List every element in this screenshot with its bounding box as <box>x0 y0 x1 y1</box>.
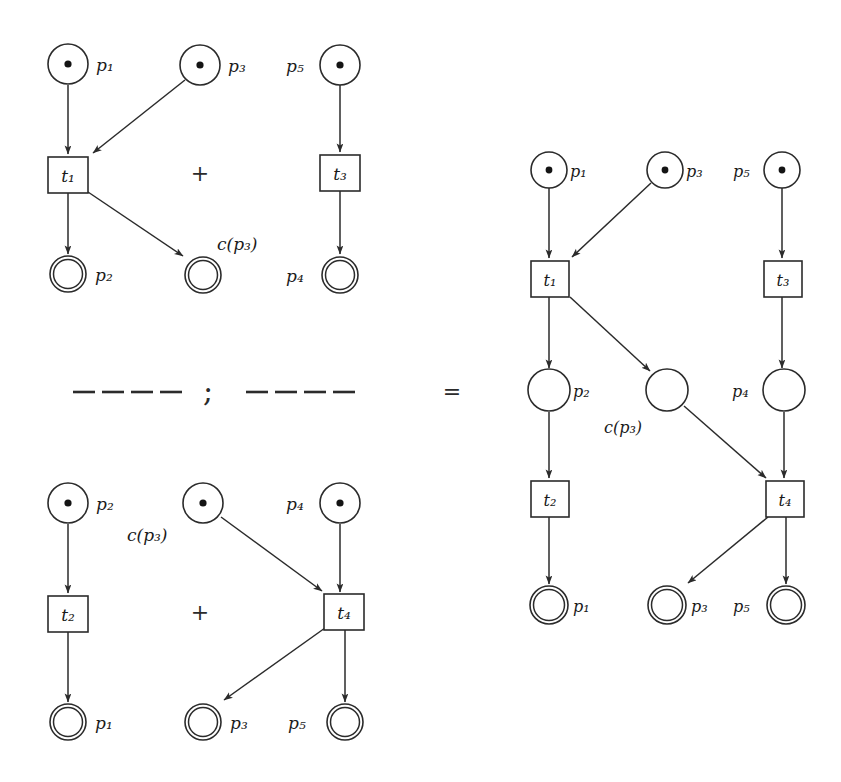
place-label-cp3: c(p₃) <box>217 234 257 254</box>
place-circle-inner <box>326 261 355 290</box>
place-circle-inner <box>652 590 683 621</box>
place-circle-inner <box>331 708 360 737</box>
transition-t4[interactable]: t₄ <box>324 594 364 630</box>
transition-label-t2: t₂ <box>544 491 557 510</box>
arc-t4-p3 <box>224 628 325 700</box>
place-circle-inner <box>189 708 218 737</box>
transition-label-t4: t₄ <box>779 491 792 510</box>
place-label-p3: p₃ <box>228 56 246 76</box>
place-cp3-sink[interactable]: c(p₃) <box>185 234 257 293</box>
place-label-p1: p₁ <box>95 713 113 733</box>
operator-plus-top: + <box>191 161 209 186</box>
separator-row: ; = <box>73 373 461 408</box>
transition-label-t3: t₃ <box>777 271 790 290</box>
place-label-p5: p₅ <box>733 597 750 616</box>
operator-equals: = <box>443 379 461 404</box>
place-circle-inner <box>54 260 83 289</box>
token-dot <box>64 499 71 506</box>
arc-cp3-t4 <box>221 517 322 591</box>
place-p5-sink-right[interactable]: p₅ <box>733 586 805 624</box>
place-p5-sink-bottom[interactable]: p₅ <box>288 704 363 740</box>
place-p3-sink-right[interactable]: p₃ <box>648 586 708 624</box>
arc-t4-p3b-right <box>688 517 768 583</box>
place-label-cp3: c(p₃) <box>604 418 642 437</box>
transition-t1-right[interactable]: t₁ <box>531 261 569 297</box>
transition-t4-right[interactable]: t₄ <box>766 481 804 517</box>
transition-label-t1: t₁ <box>61 166 75 186</box>
transition-label-t4: t₄ <box>337 603 351 623</box>
place-circle-inner <box>189 261 218 290</box>
token-dot <box>336 61 343 68</box>
place-label-p4: p₄ <box>286 494 304 514</box>
place-circle-inner <box>771 590 802 621</box>
place-label-p5: p₅ <box>288 713 306 733</box>
token-dot <box>336 499 343 506</box>
operator-plus-bottom: + <box>191 600 209 625</box>
place-label-p4: p₄ <box>286 266 304 286</box>
place-label-p2: p₂ <box>95 265 113 285</box>
place-p3-sink-bottom[interactable]: p₃ <box>185 704 248 740</box>
operator-semicolon: ; <box>203 373 213 408</box>
place-p2-sink[interactable]: p₂ <box>50 256 113 292</box>
arc-p3-t1-right <box>572 183 651 257</box>
place-p3-source[interactable]: p₃ <box>180 45 246 85</box>
place-label-p2: p₂ <box>573 382 590 401</box>
petri-net-figure: p₁ p₃ p₅ t₁ t₃ <box>0 0 841 782</box>
transition-t3-right[interactable]: t₃ <box>764 261 802 297</box>
place-p4-sink[interactable]: p₄ <box>286 257 358 293</box>
transition-t2-right[interactable]: t₂ <box>531 481 569 517</box>
place-cp3-source-bottom[interactable]: c(p₃) <box>127 483 223 545</box>
place-p1-sink-bottom[interactable]: p₁ <box>50 704 113 740</box>
token-dot <box>64 60 71 67</box>
place-p1-sink-right[interactable]: p₁ <box>530 586 590 624</box>
place-label-p1: p₁ <box>573 597 590 616</box>
place-label-p1: p₁ <box>570 162 587 181</box>
transition-label-t1: t₁ <box>544 271 557 290</box>
panel-bottom-left: p₂ c(p₃) p₄ t₂ t₄ <box>48 483 364 740</box>
place-p1-source-right[interactable]: p₁ <box>531 152 587 188</box>
token-dot <box>779 167 786 174</box>
transition-t2[interactable]: t₂ <box>48 596 88 632</box>
transition-label-t3: t₃ <box>333 164 347 184</box>
petri-net-canvas: p₁ p₃ p₅ t₁ t₃ <box>0 0 841 782</box>
token-dot <box>196 61 203 68</box>
token-dot <box>662 167 669 174</box>
token-dot <box>546 167 553 174</box>
token-dot <box>199 499 206 506</box>
place-cp3-internal-right[interactable]: c(p₃) <box>604 369 688 437</box>
panel-top-left: p₁ p₃ p₅ t₁ t₃ <box>48 44 360 293</box>
transition-t3[interactable]: t₃ <box>320 155 360 191</box>
place-p2-source-bottom[interactable]: p₂ <box>48 483 114 523</box>
place-label-p4: p₄ <box>732 382 749 401</box>
place-circle-inner <box>54 708 83 737</box>
transition-t1[interactable]: t₁ <box>48 157 88 193</box>
place-p5-source-right[interactable]: p₅ <box>733 152 800 188</box>
transition-label-t2: t₂ <box>61 605 75 625</box>
place-p4-source-bottom[interactable]: p₄ <box>286 483 360 523</box>
place-label-p2: p₂ <box>96 494 114 514</box>
place-circle <box>646 369 688 411</box>
place-label-p1: p₁ <box>96 55 114 75</box>
arc-t1-cp3-right <box>570 297 650 371</box>
place-label-p5: p₅ <box>286 56 304 76</box>
place-label-p3: p₃ <box>691 597 708 616</box>
place-p4-internal-right[interactable]: p₄ <box>732 369 805 411</box>
place-circle <box>528 369 570 411</box>
place-p2-internal-right[interactable]: p₂ <box>528 369 590 411</box>
place-p3-source-right[interactable]: p₃ <box>647 152 703 188</box>
panel-right-composed: p₁ p₃ p₅ t₁ t₃ <box>528 152 805 624</box>
place-circle <box>763 369 805 411</box>
place-p1-source[interactable]: p₁ <box>48 44 114 84</box>
place-label-p3: p₃ <box>230 713 248 733</box>
place-circle-inner <box>534 590 565 621</box>
place-label-cp3: c(p₃) <box>127 525 167 545</box>
arc-p3-t1 <box>93 80 185 153</box>
arc-cp3-t4-right <box>684 406 766 478</box>
place-label-p3: p₃ <box>686 162 703 181</box>
place-label-p5: p₅ <box>733 162 750 181</box>
arc-t1-cp3 <box>88 192 183 256</box>
place-p5-source[interactable]: p₅ <box>286 45 360 85</box>
